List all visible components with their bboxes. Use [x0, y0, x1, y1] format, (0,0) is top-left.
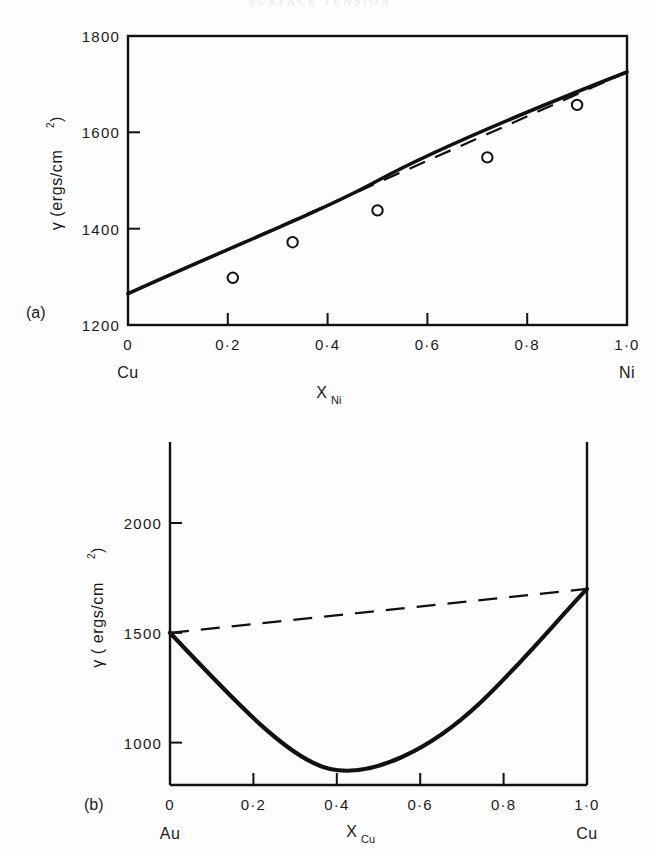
x-tick-label-a-5: 1·0	[614, 336, 639, 353]
x-tick-label-a-3: 0·6	[415, 336, 440, 353]
x-tick-label-b-4: 0·8	[491, 796, 516, 813]
data-point	[287, 237, 297, 247]
x-tick-label-b-5: 1·0	[574, 796, 599, 813]
x-axis-label-a: X Ni	[316, 384, 341, 406]
x-axis-endpoint-left-a: Cu	[117, 364, 138, 381]
ideal-line-b	[170, 589, 587, 633]
y-tick-label-a-0: 1200	[82, 317, 120, 334]
y-axis-ticks-a	[128, 36, 140, 325]
panel-label-b: (b)	[84, 796, 104, 813]
y-tick-label-b-1: 1500	[124, 625, 162, 642]
data-points-a	[228, 100, 583, 283]
y-tick-label-b-2: 2000	[124, 515, 162, 532]
y-tick-label-a-1: 1400	[82, 221, 120, 238]
x-tick-label-b-2: 0·4	[324, 796, 349, 813]
chart-panel-a: 1200 1400 1600 1800 0 0·2 0·4 0·6 0·8 1·…	[0, 0, 656, 430]
x-axis-ticks-b	[170, 773, 587, 785]
data-point	[482, 152, 492, 162]
data-point	[372, 205, 382, 215]
y-axis-label-a: γ (ergs/cm 2 )	[45, 116, 65, 230]
y-axis-label-b-close: )	[89, 547, 106, 553]
x-axis-endpoint-right-b: Cu	[576, 825, 597, 842]
plot-axes-b	[170, 442, 587, 785]
data-point-outlier	[228, 273, 238, 283]
y-tick-label-a-2: 1600	[82, 124, 120, 141]
x-axis-endpoint-left-b: Au	[160, 825, 181, 842]
x-tick-label-b-1: 0·2	[241, 796, 266, 813]
y-tick-label-b-0: 1000	[124, 735, 162, 752]
x-tick-label-a-0: 0	[123, 336, 133, 353]
experimental-curve-b	[170, 589, 587, 771]
x-tick-label-a-2: 0·4	[315, 336, 340, 353]
x-axis-ticks-a	[128, 313, 627, 325]
x-tick-label-b-3: 0·6	[408, 796, 433, 813]
x-axis-endpoint-right-a: Ni	[619, 364, 635, 381]
x-tick-label-a-4: 0·8	[515, 336, 540, 353]
y-axis-label-b: γ ( ergs/cm 2 )	[86, 547, 106, 668]
chart-panel-b: 1000 1500 2000 0 0·2 0·4 0·6 0·8 1·0 Au …	[0, 420, 656, 854]
x-axis-label-b-main: X	[346, 823, 357, 840]
x-axis-label-b: X Cu	[346, 823, 375, 845]
figure-two-panel-surface-tension: SURFACE TENSION	[0, 0, 656, 854]
y-axis-label-b-main: γ ( ergs/cm	[89, 582, 106, 668]
data-point	[572, 100, 582, 110]
x-tick-label-a-1: 0·2	[215, 336, 240, 353]
x-axis-label-a-main: X	[316, 384, 327, 401]
x-axis-label-a-sub: Ni	[331, 394, 341, 406]
y-tick-label-a-3: 1800	[82, 28, 120, 45]
x-tick-label-b-0: 0	[165, 796, 175, 813]
y-axis-label-a-close: )	[48, 116, 65, 122]
x-axis-label-b-sub: Cu	[361, 833, 375, 845]
y-axis-label-a-main: γ (ergs/cm	[48, 150, 65, 231]
panel-label-a: (a)	[26, 304, 46, 321]
